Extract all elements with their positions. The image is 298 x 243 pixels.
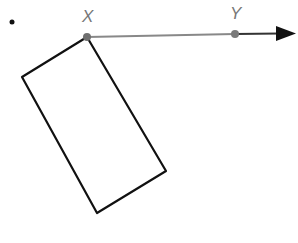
arrowhead-icon xyxy=(276,26,296,41)
geometry-figure: X Y xyxy=(0,0,298,243)
point-y xyxy=(231,30,239,38)
ray-xy-extension xyxy=(235,34,280,35)
ray-xy xyxy=(87,34,235,37)
diagram-canvas: X Y xyxy=(0,0,298,243)
point-x xyxy=(83,33,91,41)
label-x: X xyxy=(81,7,94,26)
label-y: Y xyxy=(230,4,243,23)
bullet-marker xyxy=(10,20,15,25)
rotated-rectangle xyxy=(22,37,166,213)
